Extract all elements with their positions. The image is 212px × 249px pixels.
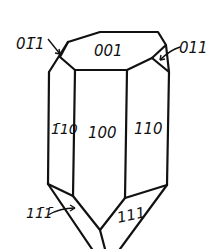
crystal-diagram: 01̄1 001 011 1̄10 100 110 11̄1̄ 111 [0, 0, 212, 249]
label-1-10: 1̄10 [51, 122, 78, 136]
prism-right-edge [167, 72, 169, 185]
prism-left-edge [48, 72, 49, 184]
label-1-1-1: 11̄1̄ [26, 206, 53, 220]
label-110: 110 [134, 122, 163, 137]
prism-edge-3 [125, 70, 127, 198]
leader-01-1 [48, 39, 60, 54]
pyr-edge-d [125, 185, 167, 198]
pyr-edge-g [100, 230, 105, 249]
upper-left-edge [49, 42, 68, 72]
label-01-1: 01̄1 [16, 37, 45, 52]
label-001: 001 [94, 44, 123, 59]
label-011: 011 [179, 41, 208, 56]
pyr-edge-c [73, 196, 100, 230]
label-100: 100 [88, 126, 117, 141]
